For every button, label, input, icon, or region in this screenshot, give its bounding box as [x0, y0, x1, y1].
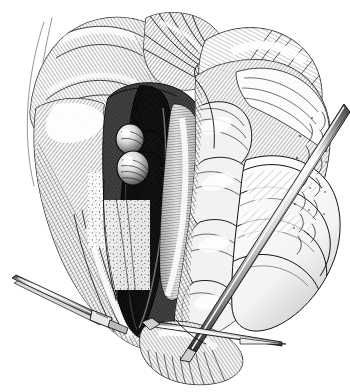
- nodule-lower: [117, 151, 149, 185]
- surgical-illustration-figure: Retroperitoneal exposure of the great ve…: [0, 0, 350, 392]
- illustration-canvas: Retroperitoneal exposure of the great ve…: [0, 0, 350, 392]
